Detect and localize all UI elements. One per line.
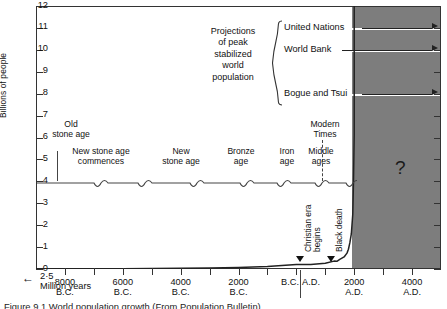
x-tick-label: 4000B.C.	[153, 277, 209, 297]
x-tick-label: 6000B.C.	[95, 277, 151, 297]
figure-caption: Figure 9.1 World population growth (From…	[4, 301, 444, 309]
x-tick-label: 4000A.D.	[384, 277, 440, 297]
projections-title-line: stabilized	[196, 49, 270, 60]
projection-source-label: World Bank	[284, 44, 331, 54]
x-tick	[210, 268, 211, 275]
era-label: Newstone age	[152, 146, 210, 166]
y-axis-title: Billions of people	[0, 0, 8, 118]
x-tick	[152, 268, 153, 275]
x-tick-label: 2000A.D.	[326, 277, 382, 297]
projection-arrowhead-icon	[432, 45, 438, 51]
projections-title-line: population	[196, 72, 270, 83]
x-tick	[354, 268, 355, 275]
x-tick-label: 2000B.C.	[211, 277, 267, 297]
projection-leader-line	[362, 94, 432, 95]
projections-title-line: of peak	[196, 37, 270, 48]
projection-row: World Bank	[284, 44, 444, 56]
era-label: ModernTimes	[296, 119, 354, 139]
projection-arrowhead-icon	[432, 23, 438, 29]
x-axis-origin-unit: Million years	[40, 281, 96, 291]
x-tick	[296, 268, 297, 275]
era-label: New stone agecommences	[72, 146, 130, 166]
x-tick	[239, 268, 240, 275]
projection-source-label: United Nations	[284, 22, 344, 32]
x-tick	[383, 268, 384, 275]
projections-title-line: world	[196, 60, 270, 71]
projection-row: United Nations	[284, 22, 444, 34]
x-tick	[267, 268, 268, 275]
projections-brace	[272, 20, 284, 106]
projection-arrowhead-icon	[432, 89, 438, 95]
projection-source-label: Bogue and Tsui	[284, 88, 347, 98]
projections-title-line: Projections	[196, 26, 270, 37]
event-marker-triangle	[296, 256, 304, 262]
projection-leader-line	[342, 50, 433, 51]
projection-leader-line	[362, 28, 432, 29]
event-label: Black death	[335, 208, 345, 252]
era-leader-old-stone-age	[57, 151, 58, 181]
projections-annotation: Projectionsof peakstabilizedworldpopulat…	[196, 12, 356, 110]
era-timeline	[37, 178, 357, 192]
era-leader-modern-times	[322, 140, 323, 181]
event-label-second-line: begins	[313, 227, 323, 252]
projections-title: Projectionsof peakstabilizedworldpopulat…	[196, 26, 270, 83]
x-tick	[123, 268, 124, 275]
projection-row: Bogue and Tsui	[284, 88, 444, 100]
event-marker-triangle	[327, 256, 335, 262]
right-tick	[434, 269, 441, 270]
x-axis-origin-note: 2·5 Million years	[40, 270, 96, 291]
bc-ad-divider	[300, 270, 301, 298]
era-label: Oldstone age	[42, 119, 100, 139]
left-arrow-icon: ←	[22, 272, 34, 284]
chart-figure: Billions of people 0123456789101112 ? Ol…	[0, 0, 447, 309]
x-tick	[181, 268, 182, 275]
x-tick	[325, 268, 326, 275]
era-label: Middleages	[292, 146, 350, 166]
x-tick	[412, 268, 413, 275]
